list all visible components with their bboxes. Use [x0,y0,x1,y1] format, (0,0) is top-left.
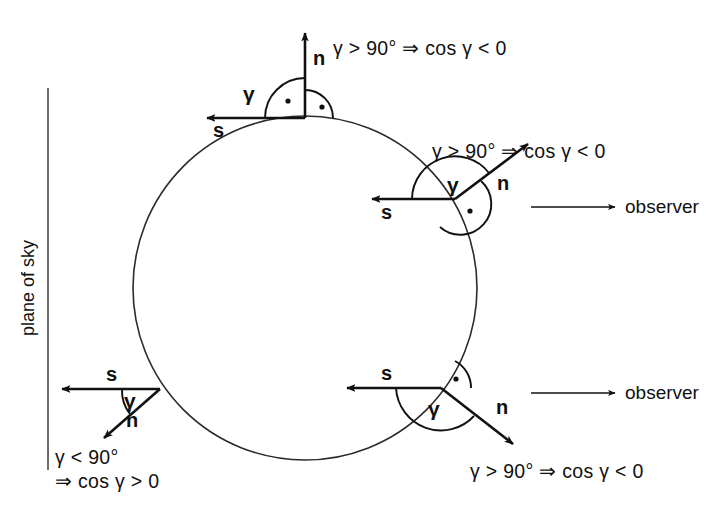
normal-label-bottom-left: n [126,409,138,431]
right-angle-dot-bottom-right [453,376,458,381]
scatter-label-bottom-left: s [106,363,117,385]
annotation-bottom-right: γ > 90° ⇒ cos γ < 0 [470,460,644,482]
gamma-label-top: γ [243,82,255,105]
gamma-label-bottom-left: γ [124,389,136,412]
config-bottom-left: n s γ γ < 90° ⇒ cos γ > 0 [55,363,160,492]
scatter-label-bottom-right: s [381,362,392,384]
annotation-middle-right: γ > 90° ⇒ cos γ < 0 [432,140,606,162]
observer-lower: observer [531,382,700,403]
annotation-top: γ > 90° ⇒ cos γ < 0 [333,37,507,59]
gamma-arc-top [265,78,305,118]
observer-label-upper: observer [625,196,700,217]
right-angle-dot-top-right [319,104,324,109]
config-bottom-right: n s γ γ > 90° ⇒ cos γ < 0 [347,361,644,482]
scattering-angle-diagram: plane of sky n s γ γ > 90° ⇒ cos γ < 0 [0,0,720,513]
gamma-arc-top-right [305,90,333,118]
scatter-label-middle-right: s [381,201,392,223]
gamma-label-middle-right: γ [447,173,459,196]
right-angle-dot-middle-right [467,208,472,213]
observer-upper: observer [531,196,700,217]
figure-root: plane of sky n s γ γ > 90° ⇒ cos γ < 0 [0,0,720,513]
normal-label-top: n [313,47,325,69]
plane-of-sky-label: plane of sky [18,240,38,336]
annotation-bottom-left-line2: ⇒ cos γ > 0 [55,470,159,492]
scatter-label-top: s [213,119,224,141]
right-angle-arc-bottom-right [455,361,471,388]
observer-label-lower: observer [625,382,700,403]
config-middle-right: n s γ γ > 90° ⇒ cos γ < 0 [372,140,606,235]
normal-label-middle-right: n [497,172,509,194]
annotation-bottom-left-line1: γ < 90° [55,446,119,468]
gamma-label-bottom-right: γ [428,397,440,420]
normal-label-bottom-right: n [496,396,508,418]
right-angle-dot-top-left [285,98,290,103]
